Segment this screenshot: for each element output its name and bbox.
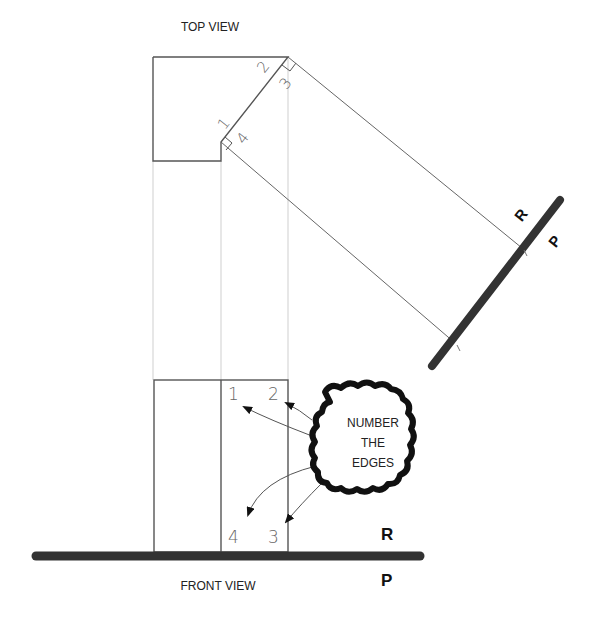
top-view-edge-numbers: 1 2 3 4 — [214, 58, 296, 148]
front-edge-4: 4 — [228, 527, 239, 547]
top-edge-4: 4 — [233, 129, 253, 148]
front-view-title: FRONT VIEW — [180, 579, 256, 593]
front-edge-1: 1 — [228, 384, 239, 404]
front-view-edge-numbers: 1 2 3 4 — [228, 384, 279, 547]
top-view-title: TOP VIEW — [181, 20, 240, 34]
projection-lines — [153, 57, 288, 380]
aux-fold-label-r: R — [511, 205, 531, 224]
top-edge-3: 3 — [275, 74, 295, 93]
auxiliary-fold-line — [432, 200, 560, 366]
front-fold-label-p: P — [381, 571, 392, 590]
front-fold-label-r: R — [381, 525, 393, 544]
top-edge-2: 2 — [253, 58, 273, 77]
orthographic-drawing: 1 2 3 4 1 2 3 4 NUMBER THE EDGES TOP VIE… — [0, 0, 591, 628]
cloud-line-3: EDGES — [352, 456, 394, 470]
auxiliary-projection-lines — [221, 57, 522, 343]
front-edge-2: 2 — [268, 384, 279, 404]
cloud-line-2: THE — [361, 436, 385, 450]
cloud-line-1: NUMBER — [347, 416, 399, 430]
front-edge-3: 3 — [268, 527, 279, 547]
aux-fold-label-p: P — [545, 232, 565, 250]
